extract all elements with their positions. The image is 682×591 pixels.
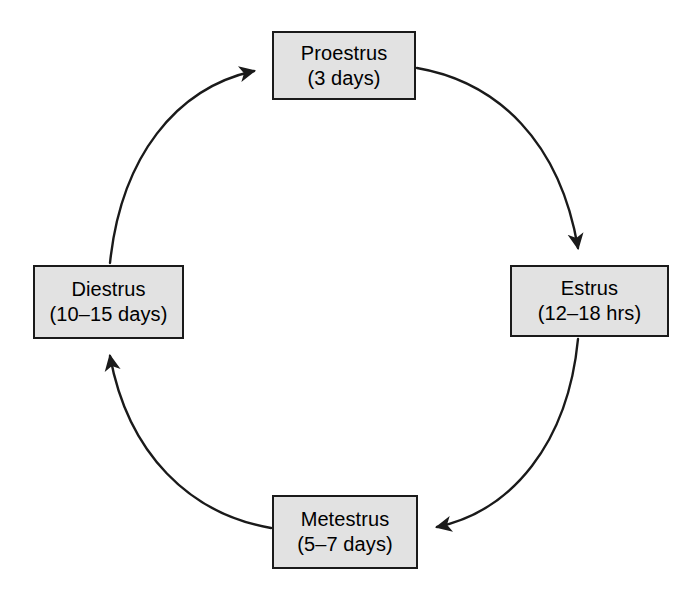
node-estrus-label: Estrus: [561, 276, 618, 301]
node-proestrus[interactable]: Proestrus (3 days): [272, 31, 416, 100]
node-diestrus[interactable]: Diestrus (10–15 days): [33, 265, 184, 339]
node-estrus[interactable]: Estrus (12–18 hrs): [510, 265, 669, 337]
node-diestrus-duration: (10–15 days): [50, 302, 168, 327]
diagram-canvas: Proestrus (3 days) Estrus (12–18 hrs) Me…: [0, 0, 682, 591]
arrow-estrus-to-metestrus: [437, 339, 578, 527]
arrow-metestrus-to-diestrus: [110, 356, 271, 528]
node-metestrus-duration: (5–7 days): [297, 532, 393, 557]
node-estrus-duration: (12–18 hrs): [538, 301, 641, 326]
arrow-proestrus-to-estrus: [417, 68, 578, 248]
node-proestrus-duration: (3 days): [307, 66, 380, 91]
node-diestrus-label: Diestrus: [71, 277, 145, 302]
arrow-diestrus-to-proestrus: [110, 71, 254, 263]
node-metestrus[interactable]: Metestrus (5–7 days): [272, 495, 418, 569]
node-proestrus-label: Proestrus: [301, 41, 388, 66]
node-metestrus-label: Metestrus: [301, 507, 390, 532]
